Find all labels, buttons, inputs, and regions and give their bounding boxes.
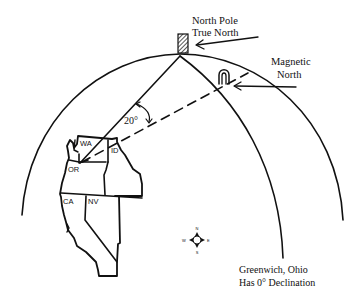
state-label-ca: CA	[63, 197, 73, 206]
declination-angle-label: 20°	[124, 115, 138, 126]
state-label-id: ID	[111, 146, 119, 155]
true-north-label: True North	[192, 27, 239, 38]
compass-w: W	[182, 238, 186, 243]
true-north-line	[80, 56, 180, 163]
north-pole-arrow	[196, 37, 258, 49]
north-pole-marker-icon	[178, 34, 188, 53]
compass-e: E	[207, 238, 210, 243]
north-pole-label: North Pole	[192, 15, 238, 26]
magnetic-north-marker-icon	[219, 70, 229, 84]
state-label-nv: NV	[88, 197, 98, 206]
declination-diagram: North Pole True North Magnetic North 20°	[0, 0, 361, 302]
state-label-wa: WA	[80, 139, 92, 148]
western-states-map	[60, 136, 142, 276]
compass-rose-icon: N S E W	[182, 226, 210, 255]
state-label-or: OR	[68, 165, 80, 174]
magnetic-north-arrow	[234, 82, 296, 90]
declination-angle-arc	[136, 102, 152, 123]
magnetic-label: Magnetic	[271, 56, 311, 67]
compass-s: S	[196, 250, 199, 255]
magnetic-north-line	[82, 73, 248, 162]
magnetic-north-label: North	[277, 69, 302, 80]
compass-n: N	[196, 226, 199, 231]
zero-declination-label: Has 0° Declination	[239, 277, 315, 288]
greenwich-label: Greenwich, Ohio	[239, 264, 308, 275]
